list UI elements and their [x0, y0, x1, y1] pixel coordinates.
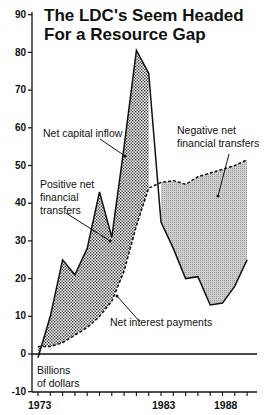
annotation-line: Negative net	[177, 124, 259, 137]
y-tick-20: 20	[4, 273, 26, 284]
chart-title: The LDC's Seem Headed For a Resource Gap	[44, 6, 244, 44]
annotation-line: Positive net	[40, 178, 94, 191]
x-tick-1988: 1988	[214, 399, 237, 411]
y-tick-60: 60	[4, 122, 26, 133]
y-axis-unit-label: Billions of dollars	[37, 364, 80, 390]
negative-transfer-area	[161, 160, 247, 305]
annotation-net-interest-payments: Net interest payments	[110, 316, 212, 329]
y-tick-0: 0	[4, 348, 26, 359]
annotation-line: transfers	[40, 204, 94, 217]
y-tick-minus-10: -10	[4, 386, 26, 397]
y-tick-70: 70	[4, 84, 26, 95]
y-tick-90: 90	[4, 9, 26, 20]
annotation-line: financial	[40, 191, 94, 204]
annotation-negative-transfers: Negative net financial transfers	[177, 124, 259, 150]
title-line-2: For a Resource Gap	[44, 25, 244, 44]
y-tick-10: 10	[4, 310, 26, 321]
annotation-line: financial transfers	[177, 137, 259, 150]
x-tick-1973: 1973	[28, 399, 51, 411]
unit-line: Billions	[37, 364, 80, 377]
y-tick-30: 30	[4, 235, 26, 246]
title-line-1: The LDC's Seem Headed	[44, 6, 244, 25]
annotation-net-capital-inflow: Net capital inflow	[43, 127, 122, 140]
y-tick-80: 80	[4, 47, 26, 58]
annotation-positive-transfers: Positive net financial transfers	[40, 178, 94, 217]
y-tick-50: 50	[4, 160, 26, 171]
unit-line: of dollars	[37, 377, 80, 390]
y-tick-40: 40	[4, 197, 26, 208]
x-tick-1983: 1983	[152, 399, 175, 411]
